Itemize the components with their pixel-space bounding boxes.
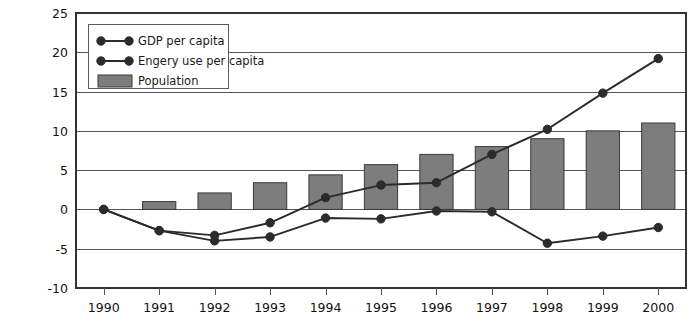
legend-marker-left-1 [97, 57, 105, 65]
data-point-1999 [599, 232, 607, 240]
bar-2000 [642, 123, 675, 209]
data-point-1994 [321, 193, 329, 201]
y-tick-label: 15 [52, 85, 68, 100]
data-point-1996 [432, 179, 440, 187]
y-tick-label: 25 [52, 6, 68, 21]
data-point-1999 [599, 89, 607, 97]
x-tick-label: 1993 [254, 300, 286, 315]
legend-label-1: Engery use per capita [138, 54, 264, 68]
data-point-1997 [488, 150, 496, 158]
y-tick-label: 5 [60, 163, 68, 178]
data-point-1996 [432, 207, 440, 215]
data-point-2000 [654, 54, 662, 62]
data-point-1993 [266, 219, 274, 227]
y-tick-label: -5 [56, 242, 68, 257]
legend-marker-right-1 [125, 57, 133, 65]
legend-marker-left-0 [97, 37, 105, 45]
x-tick-label: 1991 [143, 300, 175, 315]
bar-1993 [253, 183, 286, 210]
y-tick-label: 0 [60, 202, 68, 217]
data-point-1995 [377, 181, 385, 189]
bar-1994 [309, 175, 342, 210]
x-tick-label: 2000 [642, 300, 674, 315]
chart-container: 2520151050-5-10 199019911992199319941995… [0, 0, 697, 326]
legend-marker-right-0 [125, 37, 133, 45]
data-point-1991 [155, 226, 163, 234]
x-tick-label: 1997 [476, 300, 508, 315]
data-point-1990 [100, 205, 108, 213]
x-tick-label: 1990 [88, 300, 120, 315]
y-tick-label: -10 [48, 281, 68, 296]
x-tick-label: 1995 [365, 300, 397, 315]
bar-1991 [143, 202, 176, 210]
legend-label-0: GDP per capita [138, 34, 225, 48]
y-tick-label: 20 [52, 45, 68, 60]
x-tick-label: 1999 [587, 300, 619, 315]
data-point-1997 [488, 208, 496, 216]
x-tick-label: 1992 [199, 300, 231, 315]
legend-label-2: Population [138, 74, 198, 88]
data-point-1993 [266, 233, 274, 241]
legend-swatch-population [98, 75, 132, 87]
y-tick-label: 10 [52, 124, 68, 139]
data-point-2000 [654, 223, 662, 231]
data-point-1992 [210, 237, 218, 245]
x-tick-label: 1994 [310, 300, 342, 315]
data-point-1995 [377, 215, 385, 223]
data-point-1994 [321, 214, 329, 222]
x-tick-label: 1998 [531, 300, 563, 315]
bar-1999 [586, 131, 619, 210]
x-tick-label: 1996 [421, 300, 453, 315]
bar-1992 [198, 193, 231, 210]
data-point-1998 [543, 125, 551, 133]
data-point-1998 [543, 239, 551, 247]
economic-indicators-chart: 2520151050-5-10 199019911992199319941995… [0, 0, 697, 326]
bar-1998 [531, 139, 564, 210]
